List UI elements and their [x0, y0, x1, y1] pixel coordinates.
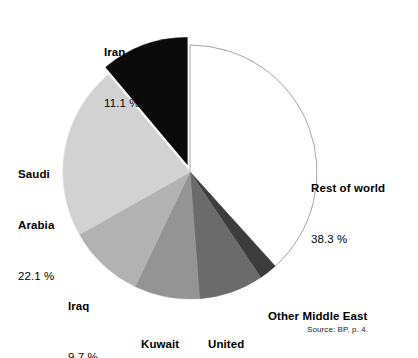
slice-label-iraq-name: Iraq — [68, 300, 98, 314]
slice-label-saudi-arabia-percent: 22.1 % — [18, 270, 54, 284]
slice-label-rest-of-world: Rest of world 38.3 % — [311, 144, 385, 284]
slice-label-rest-of-world-percent: 38.3 % — [311, 233, 385, 247]
slice-label-iran: Iran 11.1 % — [104, 8, 140, 148]
slice-label-iran-name: Iran — [104, 46, 140, 60]
slice-label-iran-percent: 11.1 % — [104, 97, 140, 111]
slice-label-kuwait-name: Kuwait — [141, 338, 179, 352]
slice-label-saudi-arabia-name-line1: Saudi — [18, 168, 54, 182]
slice-label-iraq: Iraq 9.7 % — [68, 262, 98, 358]
slice-label-kuwait: Kuwait 8.3 % — [141, 300, 179, 358]
slice-label-saudi-arabia: Saudi Arabia 22.1 % — [18, 130, 54, 322]
pie-chart: Iran 11.1 % Rest of world 38.3 % Saudi A… — [0, 0, 418, 358]
slice-label-iraq-percent: 9.7 % — [68, 351, 98, 358]
slice-label-other-middle-east: Other Middle East 2.3 % — [268, 272, 367, 358]
slice-label-rest-of-world-name: Rest of world — [311, 182, 385, 196]
slice-label-saudi-arabia-name-line2: Arabia — [18, 219, 54, 233]
source-note: Source: BP, p. 4. — [307, 325, 368, 334]
slice-label-other-middle-east-name: Other Middle East — [268, 310, 367, 324]
